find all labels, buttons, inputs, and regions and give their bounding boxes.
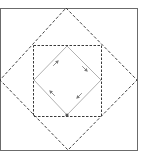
outer-diamond: [0, 8, 137, 150]
flow-arrows: [48, 59, 89, 100]
nested-squares-diagram: [0, 0, 145, 157]
arrow-icon: [81, 65, 89, 73]
vertex-marker: [65, 113, 68, 116]
arrow-icon: [75, 92, 83, 100]
outer-frame: [1, 9, 138, 151]
diagram-canvas: [0, 0, 145, 157]
inner-diamond: [34, 46, 101, 115]
dashed-square: [34, 46, 102, 117]
